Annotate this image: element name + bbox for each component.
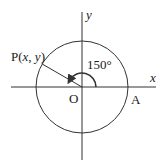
x-axis-label: x xyxy=(149,70,156,85)
radius-op xyxy=(42,64,82,87)
angle-label: 150° xyxy=(87,57,112,72)
angle-arc xyxy=(70,73,96,87)
unit-circle-diagram: y x O A 150° P(x, y) xyxy=(0,0,166,164)
point-a-label: A xyxy=(131,92,141,107)
origin-label: O xyxy=(69,91,78,106)
y-axis-label: y xyxy=(84,7,92,22)
point-p-label: P(x, y) xyxy=(11,49,45,64)
